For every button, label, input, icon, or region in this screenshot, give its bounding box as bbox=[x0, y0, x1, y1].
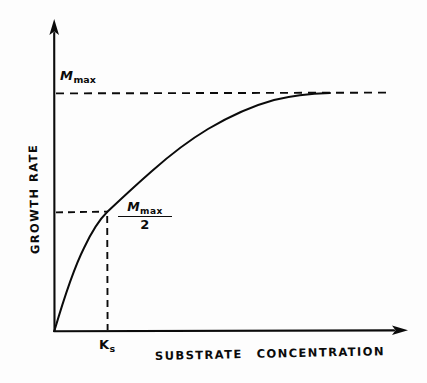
half-max-subscript: max bbox=[140, 206, 163, 216]
plot-canvas bbox=[0, 0, 427, 383]
mu-max-label: Μmax bbox=[60, 68, 96, 83]
half-max-denominator: 2 bbox=[118, 217, 172, 232]
y-axis bbox=[49, 19, 59, 331]
half-max-numerator: Μmax bbox=[118, 200, 172, 215]
monod-curve-figure: Μmax Μmax 2 Ks SUBSTRATECONCENTRATION GR… bbox=[0, 0, 427, 383]
ks-tick-label: Ks bbox=[99, 337, 116, 352]
ks-symbol: K bbox=[99, 337, 110, 352]
half-max-mu-symbol: Μ bbox=[127, 199, 140, 214]
mu-max-asymptote-line bbox=[56, 93, 392, 94]
half-max-line bbox=[56, 212, 108, 213]
ks-subscript: s bbox=[110, 343, 116, 354]
half-max-label: Μmax 2 bbox=[118, 200, 172, 232]
x-axis-title-word-1: SUBSTRATE bbox=[155, 347, 243, 363]
mu-max-symbol: Μ bbox=[60, 68, 73, 83]
x-axis-title-word-2: CONCENTRATION bbox=[257, 344, 385, 361]
mu-max-subscript: max bbox=[73, 74, 95, 85]
y-axis-title: GROWTH RATE bbox=[26, 139, 43, 259]
